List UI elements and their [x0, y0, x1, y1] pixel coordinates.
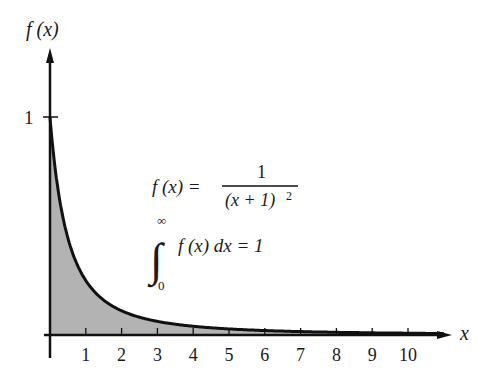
integral-upper: ∞ — [157, 213, 166, 228]
x-tick-label: 6 — [260, 345, 269, 365]
x-tick-label: 5 — [225, 345, 234, 365]
x-tick-label: 9 — [368, 345, 377, 365]
x-tick-label: 8 — [332, 345, 341, 365]
function-curve — [50, 117, 444, 334]
x-tick-label: 3 — [153, 345, 162, 365]
formula-denominator: (x + 1) — [225, 190, 275, 211]
formula-numerator: 1 — [257, 162, 266, 182]
x-tick-label: 10 — [399, 345, 417, 365]
integral-body: f (x) dx = 1 — [178, 235, 264, 257]
x-tick-label: 2 — [117, 345, 126, 365]
chart: 1 12345678910 f (x) x f (x) = 1 (x + 1) … — [0, 0, 484, 387]
y-axis-label: f (x) — [26, 18, 59, 41]
formula-lhs: f (x) = — [152, 176, 201, 198]
formula-exponent: 2 — [286, 189, 292, 203]
x-tick-label: 7 — [296, 345, 305, 365]
y-tick-label-1: 1 — [24, 107, 34, 128]
integral-lower: 0 — [158, 278, 165, 293]
x-axis-arrow-icon — [437, 331, 452, 339]
y-axis-arrow-icon — [46, 48, 54, 63]
x-tick-label: 1 — [81, 345, 90, 365]
x-axis-label: x — [459, 322, 469, 344]
x-tick-label: 4 — [189, 345, 198, 365]
